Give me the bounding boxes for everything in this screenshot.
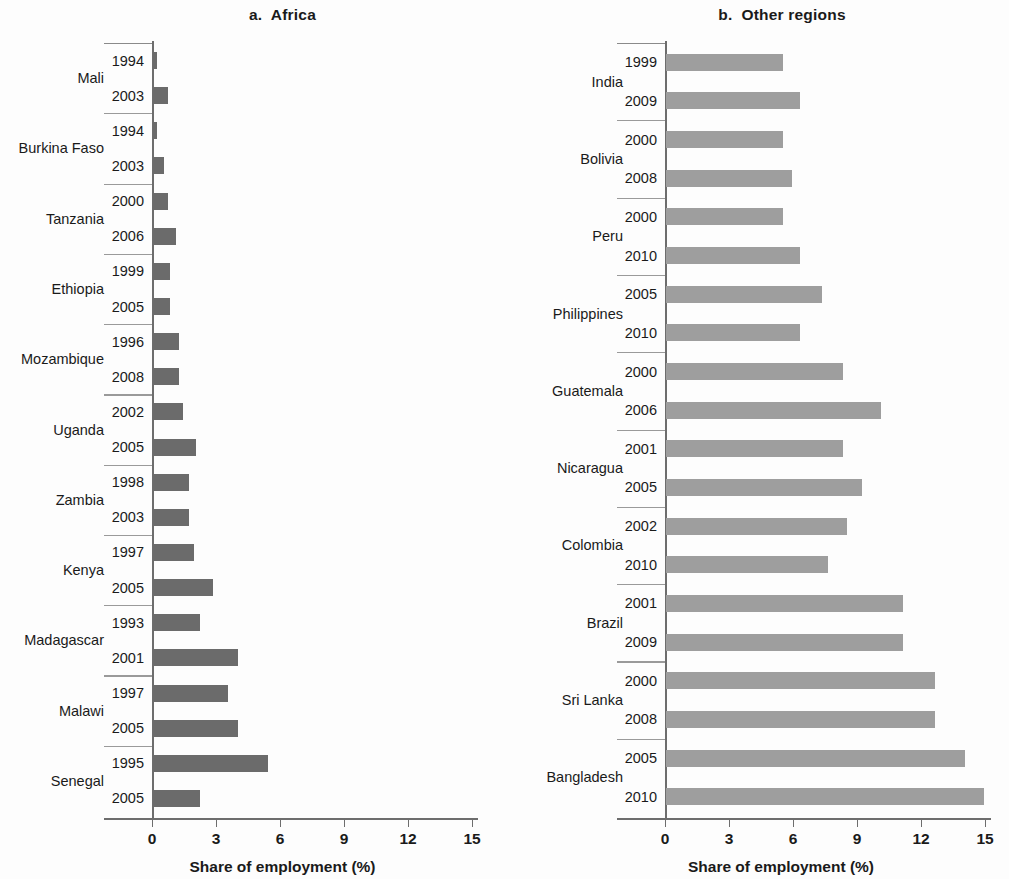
bar	[666, 556, 828, 573]
bar	[153, 228, 176, 245]
country-label: India	[505, 75, 623, 90]
country-label: Nicaragua	[505, 461, 623, 476]
x-axis-tick-label: 9	[324, 831, 364, 847]
x-axis-tick-mark	[793, 820, 794, 827]
bar	[153, 157, 164, 174]
country-label: Philippines	[505, 307, 623, 322]
group-separator	[104, 113, 152, 114]
country-label: Mozambique	[0, 352, 104, 367]
bar	[666, 131, 783, 148]
panel-a-xaxis-title: Share of employment (%)	[0, 858, 505, 876]
bar	[153, 790, 200, 807]
year-tick-label: 2008	[102, 370, 144, 385]
panel-africa: a. Africa Mali19942003Burkina Faso199420…	[0, 0, 505, 879]
group-separator	[104, 535, 152, 536]
group-separator	[617, 507, 665, 508]
country-label: Mali	[0, 71, 104, 86]
x-axis-tick-label: 6	[260, 831, 300, 847]
group-separator	[617, 120, 665, 121]
year-tick-label: 2008	[615, 712, 657, 727]
bar	[153, 403, 183, 420]
x-axis-tick-label: 15	[452, 831, 492, 847]
x-axis-tick-label: 3	[709, 831, 749, 847]
bar	[666, 363, 843, 380]
bar	[666, 286, 822, 303]
bar	[153, 544, 194, 561]
country-label: Sri Lanka	[505, 693, 623, 708]
group-separator	[104, 324, 152, 325]
country-label: Guatemala	[505, 384, 623, 399]
year-tick-label: 2003	[102, 510, 144, 525]
country-label: Peru	[505, 229, 623, 244]
country-label: Bangladesh	[505, 770, 623, 785]
country-label: Malawi	[0, 704, 104, 719]
bar	[666, 440, 843, 457]
x-axis-tick-label: 6	[773, 831, 813, 847]
figure-two-panel-bar-chart: a. Africa Mali19942003Burkina Faso199420…	[0, 0, 1009, 879]
country-label: Senegal	[0, 774, 104, 789]
group-separator	[104, 184, 152, 185]
year-tick-label: 2005	[102, 440, 144, 455]
bar	[153, 263, 170, 280]
year-tick-label: 2005	[102, 791, 144, 806]
x-axis-tick-mark	[472, 820, 473, 827]
bar	[153, 509, 189, 526]
x-axis-tick-mark	[152, 820, 153, 827]
group-separator	[104, 675, 152, 676]
year-tick-label: 2005	[615, 751, 657, 766]
bar	[666, 711, 935, 728]
group-separator	[617, 584, 665, 585]
x-axis-tick-mark	[280, 820, 281, 827]
bar	[666, 324, 800, 341]
panel-b-title: b. Other regions	[505, 6, 1009, 24]
bar	[666, 92, 800, 109]
panel-b-xaxis-title: Share of employment (%)	[505, 858, 1009, 876]
group-separator	[617, 661, 665, 662]
year-tick-label: 1998	[102, 475, 144, 490]
group-separator	[104, 254, 152, 255]
bar	[153, 649, 238, 666]
year-tick-label: 1997	[102, 545, 144, 560]
bar	[666, 750, 965, 767]
group-separator	[104, 605, 152, 606]
group-separator	[104, 394, 152, 395]
x-axis-tick-label: 9	[837, 831, 877, 847]
year-tick-label: 1999	[102, 264, 144, 279]
year-tick-label: 2005	[615, 287, 657, 302]
year-tick-label: 2010	[615, 558, 657, 573]
x-axis-tick-mark	[216, 820, 217, 827]
bar	[153, 755, 268, 772]
panel-other-regions: b. Other regions India19992009Bolivia200…	[505, 0, 1009, 879]
panel-a-title: a. Africa	[0, 6, 505, 24]
country-label: Uganda	[0, 423, 104, 438]
x-axis-tick-mark	[665, 820, 666, 827]
bar	[666, 479, 862, 496]
bar	[666, 247, 800, 264]
year-tick-label: 1993	[102, 616, 144, 631]
group-separator	[104, 465, 152, 466]
year-tick-label: 1994	[102, 124, 144, 139]
year-tick-label: 2001	[102, 651, 144, 666]
year-tick-label: 1997	[102, 686, 144, 701]
country-label: Burkina Faso	[0, 141, 104, 156]
bar	[666, 54, 783, 71]
bar	[153, 474, 189, 491]
bar	[153, 685, 228, 702]
year-tick-label: 2005	[102, 300, 144, 315]
x-axis-tick-mark	[921, 820, 922, 827]
x-axis-tick-label: 12	[901, 831, 941, 847]
group-separator	[617, 430, 665, 431]
bar	[153, 333, 179, 350]
x-axis-tick-mark	[344, 820, 345, 827]
country-label: Ethiopia	[0, 282, 104, 297]
country-label: Colombia	[505, 538, 623, 553]
year-tick-label: 1994	[102, 54, 144, 69]
year-tick-label: 2006	[102, 229, 144, 244]
year-tick-label: 2000	[102, 194, 144, 209]
bar	[666, 788, 984, 805]
year-tick-label: 2003	[102, 159, 144, 174]
bar	[153, 298, 170, 315]
group-separator	[617, 198, 665, 199]
country-label: Zambia	[0, 493, 104, 508]
year-tick-label: 2010	[615, 790, 657, 805]
